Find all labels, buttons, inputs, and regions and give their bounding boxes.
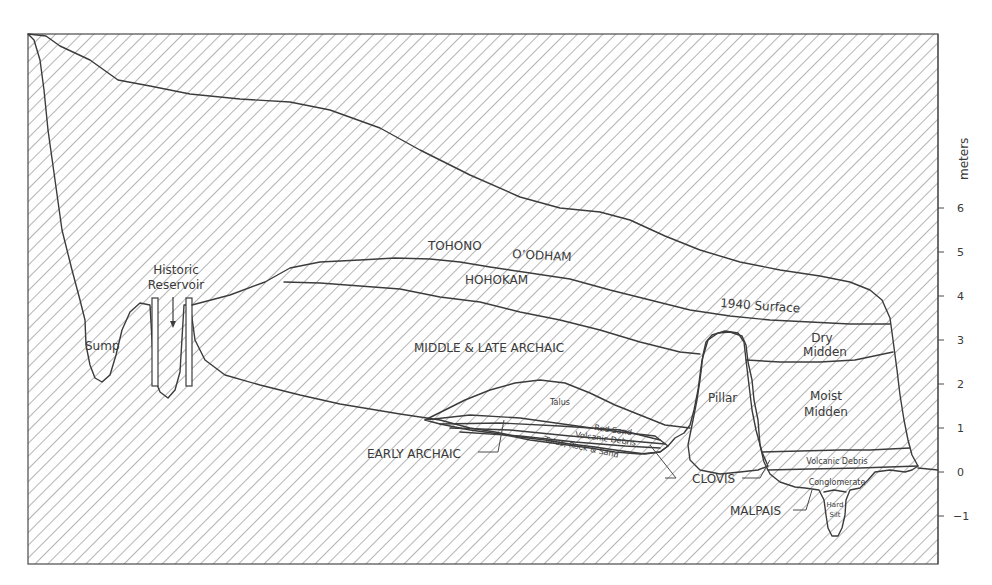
tick-1: 1	[957, 422, 964, 435]
tick-6: 6	[957, 202, 964, 215]
label-tohono: TOHONO	[427, 239, 482, 253]
cave-cross-section-diagram: 6 5 4 3 2 1 0 −1 meters Historic Reservo…	[0, 0, 992, 585]
label-conglomerate: Conglomerate	[809, 478, 866, 487]
label-dry-midden: Midden	[803, 345, 847, 359]
label-middle-late-archaic: MIDDLE & LATE ARCHAIC	[414, 341, 564, 355]
label-sump: Sump	[85, 339, 120, 353]
scale-ticks	[938, 208, 944, 516]
tick-4: 4	[957, 290, 964, 303]
tick-minus-1: −1	[953, 510, 969, 523]
label-silt: Silt	[829, 511, 840, 519]
tick-0: 0	[957, 466, 964, 479]
tick-3: 3	[957, 334, 964, 347]
label-hard: Hard	[827, 501, 844, 509]
label-pillar: Pillar	[708, 391, 737, 405]
label-hohokam: HOHOKAM	[465, 273, 528, 287]
bedrock-hatch	[28, 34, 938, 564]
label-moist-midden: Midden	[804, 405, 848, 419]
label-malpais: MALPAIS	[730, 504, 781, 518]
label-talus: Talus	[549, 398, 570, 407]
label-clovis: CLOVIS	[692, 472, 735, 486]
tick-2: 2	[957, 378, 964, 391]
label-historic: Historic	[153, 263, 199, 277]
meter-scale: 6 5 4 3 2 1 0 −1 meters	[938, 34, 971, 564]
label-moist: Moist	[810, 389, 842, 403]
tick-5: 5	[957, 246, 964, 259]
label-dry: Dry	[811, 331, 832, 345]
scale-unit-label: meters	[957, 138, 971, 180]
label-early-archaic: EARLY ARCHAIC	[367, 447, 461, 461]
label-reservoir: Reservoir	[148, 278, 205, 292]
label-volcanic-debris: Volcanic Debris	[806, 457, 867, 466]
